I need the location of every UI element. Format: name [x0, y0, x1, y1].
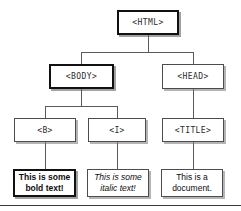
node-body-label: <BODY>	[66, 72, 97, 81]
node-document-text[interactable]: This is a document.	[161, 169, 223, 197]
node-italic-text[interactable]: This is some italic text!	[87, 169, 149, 197]
bottom-divider	[0, 205, 241, 206]
node-italic-text-label: This is some italic text!	[88, 172, 148, 194]
node-b-label: <B>	[37, 126, 53, 135]
node-bold-text[interactable]: This is some bold text!	[13, 169, 76, 197]
node-head-label: <HEAD>	[177, 72, 208, 81]
node-document-text-label: This is a document.	[162, 172, 222, 194]
node-b[interactable]: <B>	[14, 118, 76, 142]
node-i-label: <I>	[109, 126, 125, 135]
node-head[interactable]: <HEAD>	[162, 64, 224, 89]
node-bold-text-label: This is some bold text!	[15, 172, 74, 194]
node-title[interactable]: <TITLE>	[162, 118, 224, 142]
node-html[interactable]: <HTML>	[117, 10, 179, 35]
node-i[interactable]: <I>	[88, 118, 146, 142]
node-title-label: <TITLE>	[175, 126, 212, 135]
node-body[interactable]: <BODY>	[49, 64, 114, 89]
node-html-label: <HTML>	[132, 18, 163, 27]
html-tree-diagram: <HTML> <BODY> <HEAD> <B> <I> <TITLE> Thi…	[0, 0, 241, 211]
